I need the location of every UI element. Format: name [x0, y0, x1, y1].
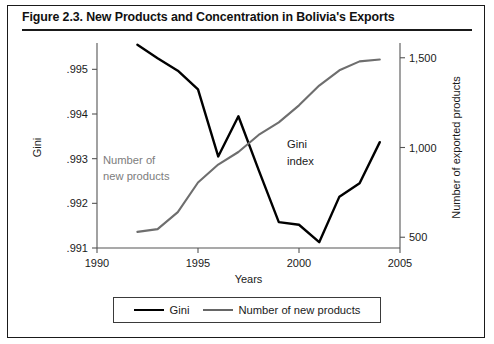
- x-tick-label: 1990: [85, 257, 109, 269]
- legend-item-new-products: Number of new products: [203, 304, 361, 316]
- legend-line-icon-gini: [134, 309, 164, 311]
- chart-series: [137, 45, 379, 242]
- x-axis-title: Years: [235, 273, 263, 285]
- y-tick-label-left: .991: [67, 242, 88, 254]
- y-axis-title-right: Number of exported products: [450, 76, 462, 219]
- chart-axes: .991.992.993.994.9955001,0001,5001990199…: [31, 43, 462, 285]
- chart-annotations: Number ofnew productsGiniindex: [103, 138, 314, 182]
- y-tick-label-right: 1,000: [409, 142, 437, 154]
- legend-item-gini: Gini: [134, 304, 190, 316]
- annotation-gini-line2: index: [287, 155, 314, 167]
- y-tick-label-left: .993: [67, 153, 88, 165]
- x-tick-label: 2005: [388, 257, 412, 269]
- y-tick-label-left: .995: [67, 63, 88, 75]
- y-tick-label-left: .994: [67, 108, 88, 120]
- y-tick-label-right: 500: [409, 231, 427, 243]
- y-axis-title-left: Gini: [31, 138, 43, 158]
- y-tick-label-right: 1,500: [409, 52, 437, 64]
- x-tick-label: 2000: [287, 257, 311, 269]
- chart-plot: .991.992.993.994.9955001,0001,5001990199…: [0, 0, 494, 344]
- y-tick-label-left: .992: [67, 197, 88, 209]
- legend-label-new-products: Number of new products: [239, 304, 361, 316]
- annotation-new-products-line1: Number of: [103, 154, 156, 166]
- annotation-new-products-line2: new products: [103, 170, 170, 182]
- chart-legend: Gini Number of new products: [113, 297, 381, 323]
- series-line-gini: [137, 45, 379, 242]
- figure-container: Figure 2.3. New Products and Concentrati…: [0, 0, 494, 344]
- series-line-new-products: [137, 60, 379, 232]
- legend-label-gini: Gini: [170, 304, 190, 316]
- legend-line-icon-new-products: [203, 309, 233, 311]
- x-tick-label: 1995: [186, 257, 210, 269]
- annotation-gini-line1: Gini: [287, 138, 307, 150]
